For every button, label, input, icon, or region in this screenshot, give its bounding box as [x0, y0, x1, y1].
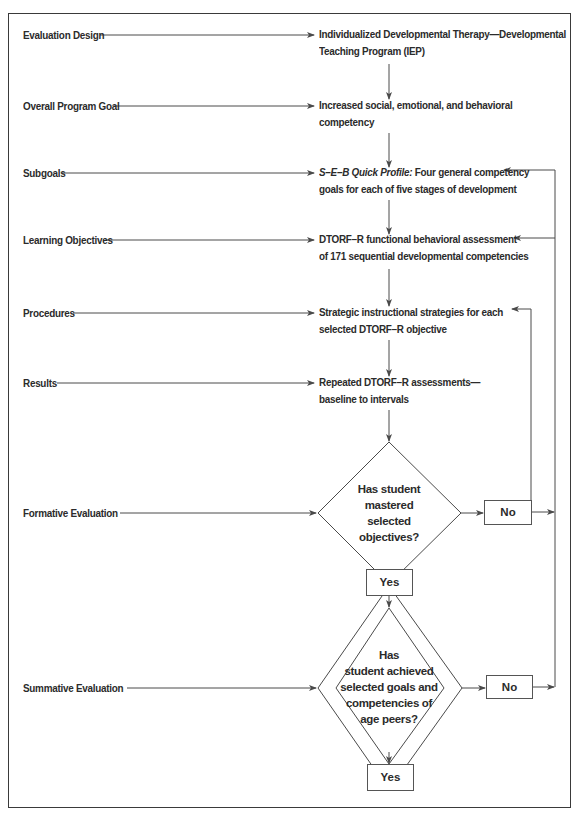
node-text-line: Increased social, emotional, and behavio…: [319, 97, 543, 114]
summative-yes-box: Yes: [367, 764, 414, 791]
question-line: selected goals and: [334, 679, 444, 695]
formative-yes-box: Yes: [366, 569, 413, 596]
question-line: objectives?: [339, 529, 439, 545]
node-procedures: Strategic instructional strategies for e…: [319, 304, 543, 338]
question-line: Has: [334, 647, 444, 663]
node-text-line: Repeated DTORF–R assessments—: [319, 374, 543, 391]
summative-no-box: No: [486, 675, 533, 699]
node-text-line: Teaching Program (IEP): [319, 43, 543, 60]
summative-decision-question: Has student achieved selected goals and …: [334, 647, 444, 727]
row-label-results: Results: [23, 376, 57, 390]
evaluation-flowchart: Evaluation Design Overall Program Goal S…: [0, 0, 583, 817]
node-evaluation-design: Individualized Developmental Therapy—Dev…: [319, 26, 543, 60]
formative-decision-question: Has student mastered selected objectives…: [339, 481, 439, 545]
row-label-subgoals: Subgoals: [23, 166, 65, 180]
node-text-line: S–E–B Quick Profile: Four general compet…: [319, 164, 543, 181]
node-text-line: baseline to intervals: [319, 391, 543, 408]
quick-profile-title: S–E–B Quick Profile:: [319, 166, 412, 178]
node-text-line: Individualized Developmental Therapy—Dev…: [319, 26, 543, 43]
row-label-formative-evaluation: Formative Evaluation: [23, 506, 118, 520]
node-results: Repeated DTORF–R assessments— baseline t…: [319, 374, 543, 408]
node-text-line: competency: [319, 114, 543, 131]
row-label-summative-evaluation: Summative Evaluation: [23, 681, 123, 695]
node-text-line: DTORF–R functional behavioral assessment: [319, 231, 543, 248]
node-text-line: Strategic instructional strategies for e…: [319, 304, 543, 321]
question-line: mastered: [339, 497, 439, 513]
row-label-learning-objectives: Learning Objectives: [23, 233, 113, 247]
node-overall-program-goal: Increased social, emotional, and behavio…: [319, 97, 543, 131]
node-text-line: selected DTORF–R objective: [319, 321, 543, 338]
node-subgoals: S–E–B Quick Profile: Four general compet…: [319, 164, 543, 198]
question-line: competencies of: [334, 695, 444, 711]
node-text-line: goals for each of five stages of develop…: [319, 181, 543, 198]
node-text-line: of 171 sequential developmental competen…: [319, 248, 543, 265]
row-label-overall-program-goal: Overall Program Goal: [23, 99, 120, 113]
node-learning-objectives: DTORF–R functional behavioral assessment…: [319, 231, 543, 265]
formative-no-box: No: [484, 500, 532, 525]
row-label-evaluation-design: Evaluation Design: [23, 28, 104, 42]
question-line: age peers?: [334, 711, 444, 727]
row-label-procedures: Procedures: [23, 306, 75, 320]
question-line: Has student: [339, 481, 439, 497]
node-text-fragment: Four general competency: [412, 166, 529, 178]
question-line: student achieved: [334, 663, 444, 679]
question-line: selected: [339, 513, 439, 529]
